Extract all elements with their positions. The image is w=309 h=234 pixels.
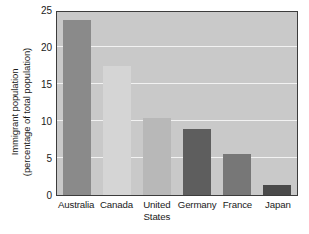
plot-area — [56, 11, 298, 196]
x-axis-tick-label: Canada — [96, 199, 136, 233]
bar-japan[interactable] — [263, 185, 290, 195]
x-axis-tick-label: Japan — [258, 199, 298, 233]
y-axis-tick-5: 5 — [22, 154, 52, 164]
x-axis-tick-label: France — [217, 199, 257, 233]
bar-slot — [177, 12, 217, 195]
x-axis-tick-labels: AustraliaCanadaUnited StatesGermanyFranc… — [56, 199, 298, 233]
y-axis-tick-10: 10 — [22, 117, 52, 127]
y-axis-tick-0: 0 — [22, 191, 52, 201]
bar-slot — [257, 12, 297, 195]
bar-slot — [217, 12, 257, 195]
bar-slot — [57, 12, 97, 195]
bar-slot — [97, 12, 137, 195]
immigrant-population-bar-chart: Immigrant population (percentage of tota… — [0, 0, 309, 234]
y-axis-tick-20: 20 — [22, 43, 52, 53]
y-axis-tick-labels: 0510152025 — [22, 0, 52, 234]
x-axis-tick-label: Australia — [56, 199, 96, 233]
x-axis-tick-label: United States — [137, 199, 177, 233]
x-axis-tick-label: Germany — [177, 199, 217, 233]
bar-series — [57, 12, 297, 195]
bar-australia[interactable] — [63, 20, 90, 195]
bar-france[interactable] — [223, 154, 250, 195]
y-axis-tick-25: 25 — [22, 6, 52, 16]
y-axis-tick-15: 15 — [22, 80, 52, 90]
bar-canada[interactable] — [103, 66, 130, 195]
bar-germany[interactable] — [183, 129, 210, 195]
bar-slot — [137, 12, 177, 195]
bar-united-states[interactable] — [143, 118, 170, 195]
